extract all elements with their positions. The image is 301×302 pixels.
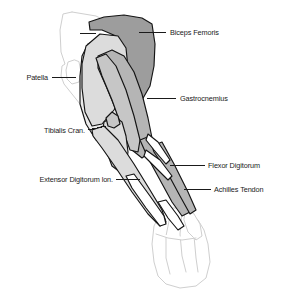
label-achilles-tendon: Achilles Tendon [214, 185, 264, 194]
muscle-group [80, 15, 196, 230]
patella-outline [66, 60, 81, 84]
label-flexor-digitorum: Flexor Digitorum [208, 161, 260, 170]
extensor-tendon [126, 174, 166, 226]
label-patella: Patella [26, 73, 49, 82]
label-extensor-digitorum: Extensor Digitorum lon. [39, 175, 113, 184]
anatomical-figure-page: Biceps Femoris Patella Gastrocnemius Tib… [0, 0, 301, 302]
femur-contour [60, 12, 80, 104]
label-tibialis-cranialis: Tibialis Cran. [44, 126, 85, 135]
hind-limb-diagram: Biceps Femoris Patella Gastrocnemius Tib… [0, 0, 301, 302]
label-gastrocnemius: Gastrocnemius [180, 94, 228, 103]
label-biceps-femoris: Biceps Femoris [170, 28, 219, 37]
